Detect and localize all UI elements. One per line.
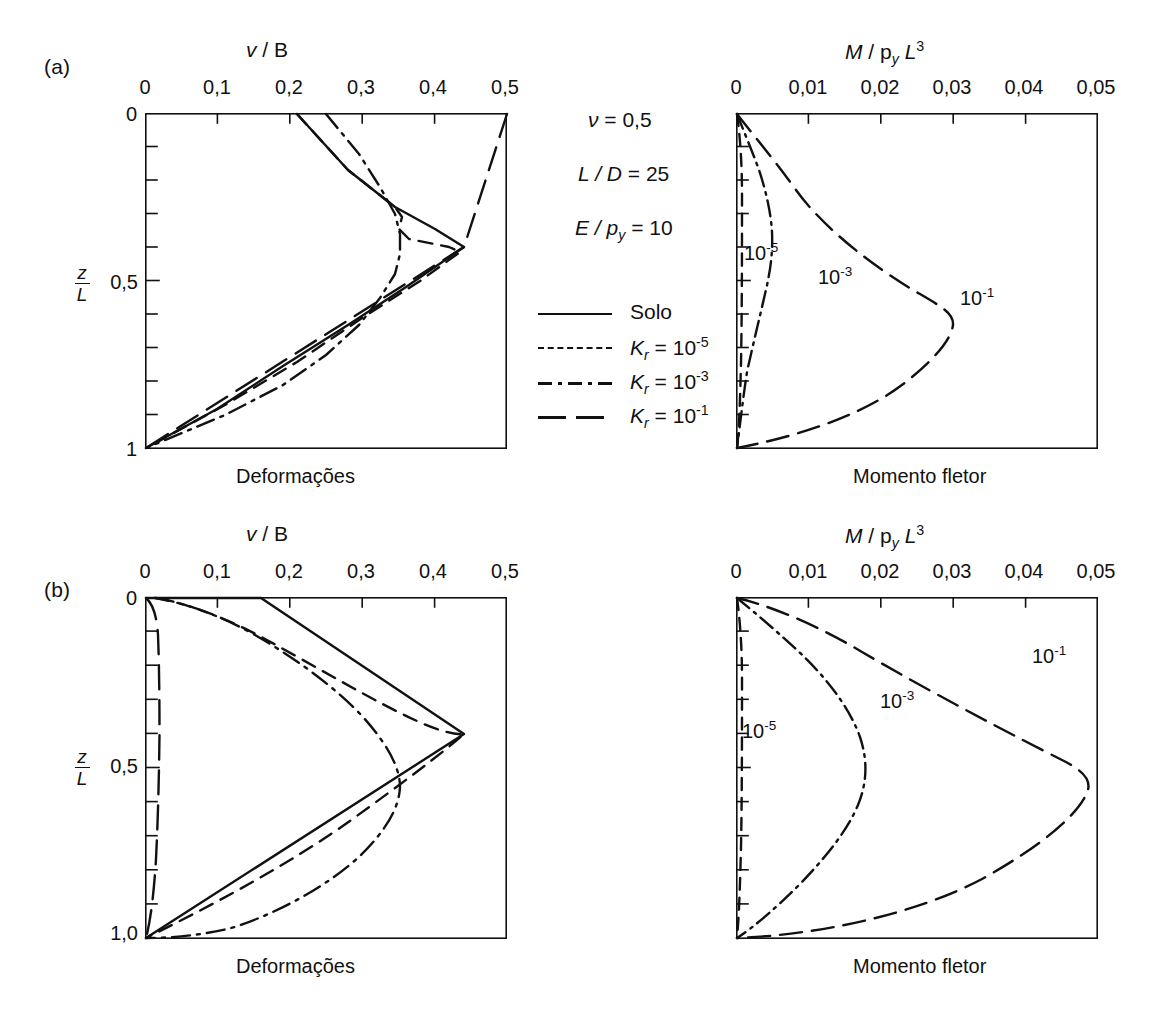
plot-frame [146,114,506,448]
xtick-b-mom-2: 0,02 [861,560,900,583]
axis-title-M: M [845,524,863,547]
param-epy-symbol: E / p [575,216,618,239]
curve-label-base: 10 [818,266,840,288]
curve-label-a-mom-1e-5: 10-5 [744,240,778,265]
legend-line-dashdot [538,382,612,385]
axis-title-deformation-b: v / B [246,522,288,546]
xtick-a-def-3: 0,3 [347,76,375,99]
xtick-a-def-2: 0,2 [275,76,303,99]
legend-kr-symbol: K [630,404,644,427]
xtick-a-def-0: 0 [139,76,150,99]
xtick-a-def-5: 0,5 [491,76,519,99]
legend-item-kr-1e-5: Kr = 10-5 [538,334,738,368]
curve-label-base: 10 [744,242,766,264]
ylabel-zl-b: z L [70,747,94,788]
curve-a-def-kr1e-3 [146,114,400,448]
axis-title-exp-3: 3 [916,522,924,538]
curve-label-base: 10 [742,720,764,742]
legend-line-dashed [538,347,612,349]
axis-title-moment-b: M / py L3 [845,522,924,551]
legend-kr-exp: -5 [696,334,709,350]
ytick-b-0: 0 [113,587,137,610]
xtick-a-mom-2: 0,02 [861,76,900,99]
x-ticks [808,598,1025,608]
xaxis-label-a-def: Deformações [236,465,355,488]
curve-b-def-solo [146,598,464,938]
plot-a-deformation [145,113,507,449]
legend-item-solo: Solo [538,300,738,334]
legend-line-longdash [538,416,612,419]
axis-title-L: L [899,40,917,63]
legend-kr-symbol: K [630,336,644,359]
axis-title-moment-a: M / py L3 [845,38,924,67]
xtick-b-mom-5: 0,05 [1077,560,1116,583]
axis-title-slash-p: / p [863,524,892,547]
xtick-b-mom-3: 0,03 [933,560,972,583]
curve-b-def-kr1e-3 [146,598,400,938]
xtick-b-def-2: 0,2 [275,560,303,583]
curve-a-def-solo [146,114,464,448]
xtick-a-mom-0: 0 [730,76,741,99]
ylabel-L: L [77,284,88,305]
curve-label-b-mom-1e-3: 10-3 [880,688,914,713]
legend-kr-eq: = 10 [649,404,696,427]
curve-a-def-kr1e-1 [146,114,507,448]
ytick-b-2: 1,0 [94,922,138,945]
legend-line-solid [538,313,612,315]
x-ticks [808,114,1025,124]
xtick-b-mom-1: 0,01 [789,560,828,583]
plot-b-deformation [145,597,507,939]
legend-kr-eq: = 10 [649,336,696,359]
y-ticks [737,147,751,415]
xtick-a-mom-5: 0,05 [1077,76,1116,99]
curve-label-a-mom-1e-1: 10-1 [960,285,994,310]
legend-kr-exp: -1 [696,402,709,418]
axis-title-L: L [899,524,917,547]
param-nu-symbol: ν [588,108,599,131]
xtick-a-def-4: 0,4 [419,76,447,99]
axis-title-overB: / B [257,38,289,61]
xtick-b-mom-4: 0,04 [1005,560,1044,583]
ylabel-z: z [77,746,87,767]
xtick-b-def-3: 0,3 [347,560,375,583]
legend-item-kr-1e-1: Kr = 10-1 [538,402,738,436]
y-ticks [146,147,160,415]
legend-kr-eq: = 10 [649,370,696,393]
xtick-a-mom-1: 0,01 [789,76,828,99]
legend-kr-exp: -3 [696,368,709,384]
panel-label-a: (a) [44,55,70,79]
curve-b-def-kr1e-5 [146,598,464,938]
figure-root: (a) v / B 0 0,1 0,2 0,3 0,4 0,5 0 0,5 1 … [0,0,1154,1010]
legend-label-kr-1e-3: Kr = 10-3 [630,368,709,397]
legend-label-kr-1e-5: Kr = 10-5 [630,334,709,363]
xtick-b-mom-0: 0 [730,560,741,583]
xaxis-label-b-mom: Momento fletor [853,955,986,978]
legend-label-kr-1e-1: Kr = 10-1 [630,402,709,431]
legend: Solo Kr = 10-5 Kr = 10-3 Kr = 10-1 [538,300,738,436]
xaxis-label-b-def: Deformações [236,955,355,978]
curve-label-base: 10 [1032,645,1054,667]
y-ticks [146,631,160,904]
axis-title-v: v [246,522,257,545]
curve-label-exp: -5 [766,240,778,255]
x-ticks [217,598,434,608]
xtick-b-def-1: 0,1 [203,560,231,583]
ylabel-L: L [77,768,88,789]
curve-label-base: 10 [880,690,902,712]
param-ld-value: = 25 [622,162,669,185]
xtick-b-def-4: 0,4 [419,560,447,583]
axis-title-sub-y: y [892,51,899,67]
ytick-a-1: 0,5 [106,271,138,294]
curve-label-a-mom-1e-3: 10-3 [818,264,852,289]
legend-item-kr-1e-3: Kr = 10-3 [538,368,738,402]
param-epy-value: = 10 [625,216,672,239]
curve-label-exp: -1 [1054,643,1066,658]
axis-title-M: M [845,40,863,63]
xtick-a-mom-4: 0,04 [1005,76,1044,99]
xtick-b-def-0: 0 [139,560,150,583]
axis-title-v: v [246,38,257,61]
panel-label-b: (b) [44,578,70,602]
param-ld: L / D = 25 [578,162,669,186]
ytick-a-2: 1 [113,438,137,461]
plot-a-moment [736,113,1098,449]
